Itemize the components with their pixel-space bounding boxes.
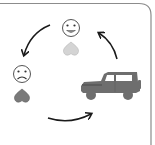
arrow-happy-to-sad	[24, 25, 50, 55]
heart-icon-light	[63, 42, 78, 55]
happy-face-icon	[63, 20, 80, 37]
arrow-jeep-to-happy	[99, 33, 117, 59]
jeep-icon	[81, 72, 141, 100]
cycle-diagram	[0, 0, 155, 145]
diagram-description: Emotional cycle involving a vehicle	[0, 0, 18, 1]
sad-face-icon	[14, 66, 31, 83]
heart-icon-dark	[14, 89, 29, 102]
arrow-sad-to-jeep	[48, 114, 91, 121]
